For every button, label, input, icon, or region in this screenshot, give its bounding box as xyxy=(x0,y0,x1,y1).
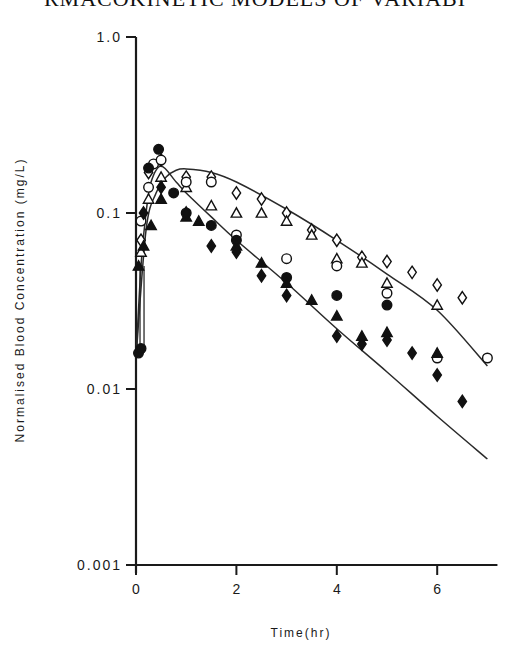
data-points xyxy=(133,145,492,408)
open-circle-marker xyxy=(181,177,191,187)
open-circle-marker xyxy=(332,261,342,271)
open-circle-marker xyxy=(282,254,292,264)
filled-circle-marker xyxy=(169,188,179,198)
open-triangle-marker xyxy=(432,300,442,309)
filled-circle-marker xyxy=(382,300,392,310)
x-axis-title: Time(hr) xyxy=(271,626,332,640)
open-diamond-marker xyxy=(333,234,341,246)
x-tick-label: 2 xyxy=(233,581,243,597)
open-triangle-marker xyxy=(382,278,392,287)
filled-diamond-marker xyxy=(282,289,290,301)
filled-triangle-marker xyxy=(194,216,204,225)
filled-diamond-marker xyxy=(458,395,466,407)
open-diamond-marker xyxy=(257,193,265,205)
open-circle-marker xyxy=(156,155,166,165)
y-tick-label: 0.1 xyxy=(97,205,122,221)
y-axis-title: Normalised Blood Concentration (mg/L) xyxy=(13,158,27,443)
filled-circle-marker xyxy=(144,163,154,173)
x-tick-label: 4 xyxy=(333,581,343,597)
y-tick-label: 1.0 xyxy=(97,29,122,45)
open-triangle-marker xyxy=(206,201,216,210)
filled-circle-marker xyxy=(136,344,146,354)
fitted-curve xyxy=(136,169,487,366)
open-triangle-marker xyxy=(156,172,166,181)
open-triangle-marker xyxy=(143,194,153,203)
open-diamond-marker xyxy=(458,292,466,304)
filled-triangle-marker xyxy=(332,311,342,320)
filled-diamond-marker xyxy=(433,369,441,381)
filled-triangle-marker xyxy=(156,194,166,203)
x-tick-label: 0 xyxy=(132,581,142,597)
x-tick-label: 6 xyxy=(433,581,443,597)
filled-triangle-marker xyxy=(307,295,317,304)
open-circle-marker xyxy=(483,353,493,363)
open-triangle-marker xyxy=(256,208,266,217)
filled-circle-marker xyxy=(332,291,342,301)
y-tick-label: 0.01 xyxy=(87,381,122,397)
open-circle-marker xyxy=(207,177,217,187)
open-diamond-marker xyxy=(433,279,441,291)
open-diamond-marker xyxy=(408,266,416,278)
open-triangle-marker xyxy=(281,216,291,225)
open-triangle-marker xyxy=(231,208,241,217)
open-circle-marker xyxy=(144,182,154,192)
concentration-time-chart: 0.0010.010.11.00246Time(hr)Normalised Bl… xyxy=(0,0,510,660)
filled-diamond-marker xyxy=(257,270,265,282)
open-diamond-marker xyxy=(232,187,240,199)
open-diamond-marker xyxy=(383,255,391,267)
filled-circle-marker xyxy=(154,145,164,155)
filled-diamond-marker xyxy=(157,181,165,193)
filled-diamond-marker xyxy=(408,347,416,359)
filled-triangle-marker xyxy=(432,348,442,357)
open-circle-marker xyxy=(382,288,392,298)
filled-diamond-marker xyxy=(207,240,215,252)
axis-labels: 0.0010.010.11.00246Time(hr)Normalised Bl… xyxy=(13,29,443,640)
y-tick-label: 0.001 xyxy=(77,557,122,573)
filled-circle-marker xyxy=(207,221,217,231)
